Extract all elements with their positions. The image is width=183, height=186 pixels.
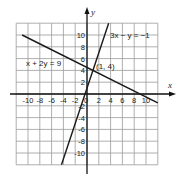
svg-text:-6: -6 — [78, 125, 85, 134]
svg-text:4: 4 — [81, 66, 85, 75]
svg-text:2: 2 — [97, 96, 101, 105]
svg-text:-4: -4 — [60, 96, 67, 105]
svg-text:4: 4 — [109, 96, 113, 105]
equation-line-1 — [22, 35, 158, 103]
equation-label-2: 3x − y = −1 — [110, 31, 150, 40]
svg-text:-4: -4 — [78, 114, 85, 123]
svg-text:-10: -10 — [74, 149, 85, 158]
coordinate-plane: -10-8-6-4-20246810-10-8-6-4-2246810 x y … — [0, 0, 183, 186]
y-axis-label: y — [90, 7, 95, 17]
svg-text:6: 6 — [120, 96, 124, 105]
svg-text:-8: -8 — [36, 96, 43, 105]
svg-text:10: 10 — [77, 31, 85, 40]
graph-figure: -10-8-6-4-20246810-10-8-6-4-2246810 x y … — [0, 0, 183, 186]
svg-text:6: 6 — [81, 55, 85, 64]
intersection-label: (1, 4) — [96, 62, 115, 71]
svg-text:8: 8 — [81, 43, 85, 52]
equation-label-1: x + 2y = 9 — [26, 59, 62, 68]
svg-text:-6: -6 — [48, 96, 55, 105]
x-axis-label: x — [167, 80, 172, 90]
axes — [10, 7, 176, 174]
svg-text:2: 2 — [81, 78, 85, 87]
svg-text:8: 8 — [132, 96, 136, 105]
svg-text:-8: -8 — [78, 137, 85, 146]
svg-text:-10: -10 — [23, 96, 34, 105]
